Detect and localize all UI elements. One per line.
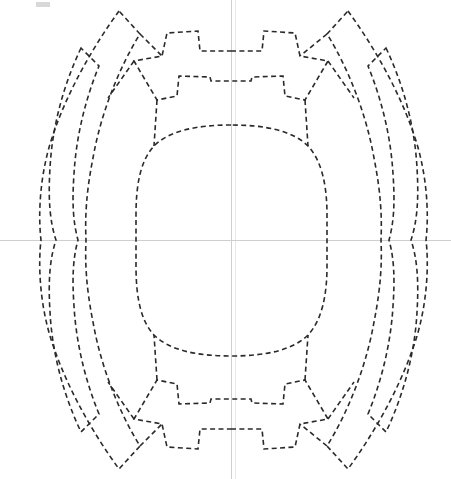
spoke-br-mid (328, 382, 354, 419)
spoke-tr-inner (305, 100, 308, 146)
spoke-br-outer (300, 424, 327, 446)
spoke-tr-mid (328, 61, 354, 98)
spoke-tl-inner (154, 100, 157, 146)
drawing-canvas (0, 0, 451, 479)
spoke-tl-outer (140, 34, 162, 56)
corner-artifact-mark (36, 2, 50, 7)
spoke-bl-outer (140, 424, 162, 446)
spoke-br-inner (305, 335, 308, 380)
pattern-drawing-svg (0, 0, 451, 479)
spoke-tl-mid (108, 61, 134, 98)
spoke-bl-inner (154, 335, 157, 380)
spoke-tr-outer (300, 34, 327, 56)
spoke-bl-mid (108, 382, 134, 419)
